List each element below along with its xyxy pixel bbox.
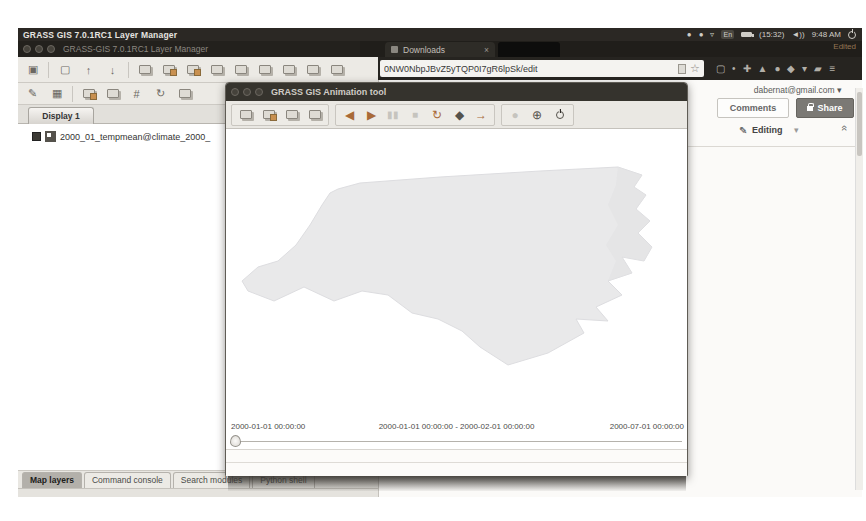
browser-tab-active[interactable] (498, 42, 560, 57)
extension-icon-3[interactable]: ● (774, 63, 780, 74)
gis-toolbox-icon[interactable]: ↻ (152, 86, 169, 102)
focused-app-title: GRASS GIS 7.0.1RC1 Layer Manager (18, 30, 177, 40)
play-forward-icon[interactable]: ▶ (363, 108, 379, 122)
georectifier-icon[interactable]: # (128, 86, 145, 102)
add-vector-misc-icon[interactable] (232, 62, 249, 78)
add-multiple-layers-icon[interactable] (136, 62, 153, 78)
messaging-icon[interactable]: ● (699, 30, 704, 39)
add-animation-icon[interactable] (237, 107, 254, 123)
navigate-icon[interactable]: ⊕ (529, 108, 545, 122)
browser-tab-downloads[interactable]: Downloads × (385, 42, 495, 57)
apps-icon[interactable]: ▰ (814, 63, 822, 74)
battery-icon[interactable] (741, 32, 752, 37)
settings-icon[interactable] (176, 86, 193, 102)
close-window-icon[interactable] (23, 45, 31, 53)
display-1-tab[interactable]: Display 1 (28, 107, 94, 124)
system-tray: ● ● ▿ En (15:32) ◄)) 9:48 AM (687, 30, 862, 39)
timeline-slider[interactable] (226, 433, 687, 449)
collapse-menus-icon[interactable]: « (842, 122, 856, 136)
extension-icon-2[interactable]: ▲ (758, 63, 768, 74)
animation-window-title: GRASS GIS Animation tool (271, 87, 386, 97)
power-menu-icon[interactable] (848, 31, 856, 39)
remove-layer-icon[interactable] (328, 62, 345, 78)
add-overlay-icon[interactable] (304, 62, 321, 78)
new-workspace-icon[interactable]: ▢ (56, 62, 73, 78)
new-map-display-icon[interactable]: ▣ (24, 62, 41, 78)
play-backward-icon[interactable]: ◀ (341, 108, 357, 122)
loop-icon[interactable]: ↻ (429, 108, 445, 122)
status-dot-icon: • (732, 63, 736, 74)
timeline-labels: 2000-01-01 00:00:00 2000-01-01 00:00:00 … (226, 419, 687, 433)
comments-button[interactable]: Comments (717, 98, 789, 118)
minimize-window-icon[interactable] (35, 45, 43, 53)
layer-checkbox[interactable] (32, 132, 41, 141)
volume-icon[interactable]: ◄)) (791, 30, 804, 39)
layer-manager-toolbar-1: ▣ ▢ ↑ ↓ (18, 57, 378, 83)
add-rgb-layer-icon[interactable] (256, 62, 273, 78)
indicator-icon[interactable]: ● (687, 30, 692, 39)
desktop-screenshot: GRASS GIS 7.0.1RC1 Layer Manager ● ● ▿ E… (0, 0, 866, 521)
maximize-window-icon[interactable] (47, 45, 55, 53)
url-text[interactable]: 0NW0NbpJBvZ5yTQP0I7gR6lpSk/edit (384, 64, 538, 74)
close-window-icon[interactable] (231, 88, 239, 96)
add-raster-misc-icon[interactable] (184, 62, 201, 78)
mode-caret-icon: ▾ (794, 125, 799, 135)
export-animation-icon[interactable] (306, 107, 323, 123)
reload-animation-icon[interactable] (283, 107, 300, 123)
reader-mode-icon[interactable]: ▢ (716, 63, 725, 74)
edit-animation-icon[interactable] (260, 107, 277, 123)
keyboard-layout-indicator[interactable]: En (721, 30, 734, 39)
extension-icon-4[interactable]: ◆ (787, 63, 795, 74)
extension-icon-5[interactable]: ▾ (802, 63, 807, 74)
tab-favicon (391, 46, 398, 53)
add-vector-layer-icon[interactable] (208, 62, 225, 78)
account-email[interactable]: dabernat@gmail.com ▾ (754, 85, 842, 95)
minimize-window-icon[interactable] (243, 88, 251, 96)
address-bar[interactable]: 0NW0NbpJBvZ5yTQP0I7gR6lpSk/edit ☆ (380, 60, 704, 77)
docs-scrollbar[interactable] (855, 88, 863, 490)
step-forward-icon[interactable]: → (473, 108, 489, 122)
pause-icon[interactable]: ▮▮ (385, 109, 401, 120)
add-mapset-layer-icon[interactable] (80, 86, 97, 102)
docs-scrollbar-thumb[interactable] (857, 92, 862, 156)
attribute-table-icon[interactable]: ▦ (48, 86, 65, 102)
display-tab-label: Display 1 (42, 111, 79, 121)
clock[interactable]: 9:48 AM (812, 30, 841, 39)
add-raster-layer-icon[interactable] (160, 62, 177, 78)
layer-manager-titlebar[interactable]: GRASS-GIS 7.0.1RC1 Layer Manager (18, 41, 360, 57)
tab-map-layers[interactable]: Map layers (22, 472, 82, 488)
slider-track[interactable] (231, 441, 682, 442)
tab-command-console[interactable]: Command console (84, 472, 171, 488)
playback-group: ◀ ▶ ▮▮ ■ ↻ ◆ → (335, 104, 495, 126)
page-icon[interactable] (678, 64, 686, 74)
tools-group: ● ⊕ (501, 104, 574, 126)
stop-icon[interactable]: ■ (407, 109, 423, 120)
share-button[interactable]: Share (796, 98, 854, 118)
add-group-icon[interactable] (280, 62, 297, 78)
layer-name[interactable]: 2000_01_tempmean@climate_2000_ (60, 132, 210, 142)
scan-margin (0, 0, 866, 28)
extension-icon-1[interactable]: ✚ (743, 63, 751, 74)
edited-indicator: Edited (786, 42, 856, 55)
open-workspace-icon[interactable]: ↑ (80, 62, 97, 78)
wifi-icon[interactable]: ▿ (710, 30, 714, 39)
north-carolina-raster-map (240, 161, 680, 419)
save-workspace-icon[interactable]: ↓ (104, 62, 121, 78)
animation-titlebar[interactable]: GRASS GIS Animation tool (226, 83, 687, 101)
quit-icon[interactable] (551, 107, 568, 123)
edit-vector-icon[interactable]: ✎ (24, 86, 41, 102)
layer-manager-window-title: GRASS-GIS 7.0.1RC1 Layer Manager (63, 44, 208, 54)
close-tab-icon[interactable]: × (484, 45, 489, 55)
globe-3d-icon[interactable]: ● (507, 108, 523, 122)
editing-mode-label: Editing (752, 125, 783, 135)
maximize-window-icon[interactable] (255, 88, 263, 96)
slider-handle[interactable] (230, 435, 241, 447)
layer-tree-item[interactable]: 2000_01_tempmean@climate_2000_ (32, 131, 210, 142)
lock-icon (807, 106, 813, 111)
bounce-icon[interactable]: ◆ (451, 108, 467, 122)
toolbar-separator (72, 86, 73, 102)
bookmark-star-icon[interactable]: ☆ (690, 62, 700, 75)
animation-tool-window: GRASS GIS Animation tool ◀ ▶ ▮▮ ■ ↻ ◆ → … (225, 82, 688, 476)
graphical-modeler-icon[interactable] (104, 86, 121, 102)
menu-icon[interactable]: ≡ (829, 63, 835, 74)
